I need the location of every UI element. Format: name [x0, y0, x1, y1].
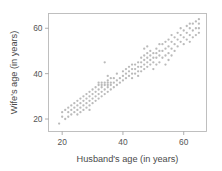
data-point	[101, 82, 103, 84]
data-point	[167, 38, 169, 40]
data-point	[170, 54, 172, 56]
data-point	[97, 97, 99, 99]
data-point	[189, 27, 191, 29]
data-point	[107, 82, 109, 84]
data-point	[155, 48, 157, 50]
data-point	[149, 50, 151, 52]
data-point	[189, 34, 191, 36]
data-point	[140, 70, 142, 72]
data-point	[122, 75, 124, 77]
data-point	[119, 82, 121, 84]
data-point	[152, 52, 154, 54]
data-point	[170, 34, 172, 36]
data-point	[146, 52, 148, 54]
data-point	[155, 52, 157, 54]
data-point	[180, 27, 182, 29]
data-point	[85, 107, 87, 109]
scatter-plot-figure: 204060 204060 Husband's age (in years) W…	[0, 0, 222, 171]
data-point	[137, 61, 139, 63]
y-tick-label: 20	[33, 114, 43, 124]
data-point	[70, 113, 72, 115]
data-point	[195, 20, 197, 22]
data-point	[167, 59, 169, 61]
data-point	[173, 43, 175, 45]
y-tick-label: 40	[33, 69, 43, 79]
data-point	[82, 100, 84, 102]
data-point	[173, 36, 175, 38]
data-point	[88, 95, 90, 97]
data-point	[107, 86, 109, 88]
data-point	[195, 34, 197, 36]
data-point	[137, 75, 139, 77]
scatter-plot-canvas: 204060 204060 Husband's age (in years) W…	[0, 0, 222, 171]
data-point	[122, 70, 124, 72]
data-point	[67, 107, 69, 109]
data-point	[155, 57, 157, 59]
data-point	[143, 63, 145, 65]
data-point	[131, 72, 133, 74]
data-point	[85, 102, 87, 104]
data-point	[91, 88, 93, 90]
data-point	[76, 100, 78, 102]
data-point	[85, 93, 87, 95]
data-point	[97, 93, 99, 95]
data-point	[152, 57, 154, 59]
data-point	[91, 102, 93, 104]
data-point	[198, 27, 200, 29]
data-point	[198, 18, 200, 20]
data-point	[143, 48, 145, 50]
data-point	[140, 61, 142, 63]
data-point	[131, 77, 133, 79]
data-point	[146, 57, 148, 59]
data-point	[183, 43, 185, 45]
data-point	[198, 23, 200, 25]
data-point	[104, 84, 106, 86]
data-point	[113, 82, 115, 84]
data-point	[143, 68, 145, 70]
data-point	[88, 100, 90, 102]
data-point	[195, 27, 197, 29]
data-point	[158, 43, 160, 45]
data-point	[94, 91, 96, 93]
x-tick-label: 40	[118, 137, 128, 147]
data-point	[134, 63, 136, 65]
data-point	[122, 79, 124, 81]
data-point	[143, 59, 145, 61]
data-point	[152, 61, 154, 63]
data-point	[82, 104, 84, 106]
data-point	[152, 68, 154, 70]
data-point	[186, 38, 188, 40]
data-point	[183, 36, 185, 38]
data-point	[176, 38, 178, 40]
data-point	[134, 72, 136, 74]
data-point	[186, 25, 188, 27]
data-point	[158, 61, 160, 63]
data-point	[104, 93, 106, 95]
data-point	[131, 63, 133, 65]
data-point	[116, 72, 118, 74]
data-point	[107, 91, 109, 93]
data-point	[64, 109, 66, 111]
data-point	[161, 57, 163, 59]
data-point	[128, 70, 130, 72]
data-point	[97, 88, 99, 90]
data-point	[113, 77, 115, 79]
data-point	[161, 43, 163, 45]
data-point	[167, 45, 169, 47]
data-point	[79, 102, 81, 104]
data-point	[94, 86, 96, 88]
data-point	[137, 70, 139, 72]
data-point	[125, 77, 127, 79]
data-point	[73, 102, 75, 104]
data-point	[146, 61, 148, 63]
data-point	[101, 86, 103, 88]
data-point	[110, 82, 112, 84]
x-tick-label: 60	[179, 137, 189, 147]
data-point	[176, 32, 178, 34]
data-point	[73, 111, 75, 113]
data-point	[146, 66, 148, 68]
data-point	[94, 100, 96, 102]
data-point	[116, 79, 118, 81]
data-point	[110, 88, 112, 90]
data-point	[79, 107, 81, 109]
